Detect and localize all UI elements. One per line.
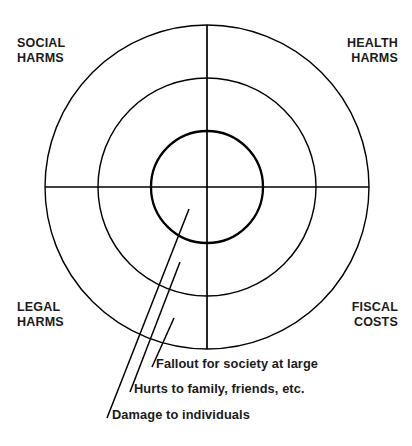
diagram-page: SOCIAL HARMS HEALTH HARMS LEGAL HARMS FI… [0, 0, 412, 446]
concentric-harms-diagram [0, 0, 412, 446]
diagram-background [0, 0, 412, 446]
